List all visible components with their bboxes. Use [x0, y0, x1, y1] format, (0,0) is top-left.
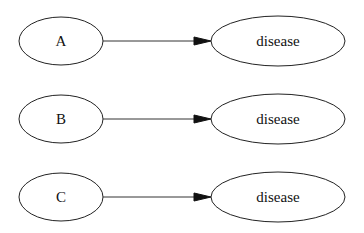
node-disease-2: disease	[211, 94, 345, 144]
node-disease-2-label: disease	[256, 111, 300, 127]
graph-canvas: A disease B disease C disease	[0, 0, 364, 233]
node-disease-3-label: disease	[256, 189, 300, 205]
node-disease-1: disease	[211, 16, 345, 66]
node-c-label: C	[56, 189, 66, 205]
arrowhead-icon	[194, 193, 211, 201]
node-disease-3: disease	[211, 172, 345, 222]
edge-b-disease	[103, 115, 211, 123]
node-b: B	[19, 95, 103, 143]
arrowhead-icon	[194, 37, 211, 45]
edge-a-disease	[103, 37, 211, 45]
edge-c-disease	[103, 193, 211, 201]
node-c: C	[19, 173, 103, 221]
arrowhead-icon	[194, 115, 211, 123]
node-a-label: A	[56, 33, 67, 49]
node-disease-1-label: disease	[256, 33, 300, 49]
node-a: A	[19, 17, 103, 65]
node-b-label: B	[56, 111, 66, 127]
